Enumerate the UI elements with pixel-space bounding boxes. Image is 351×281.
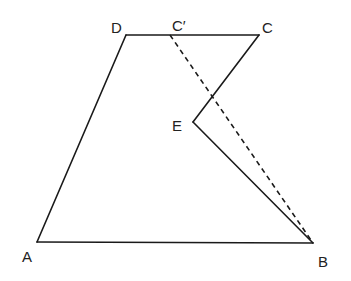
- segment-C-prime-B: [170, 35, 313, 243]
- label-E: E: [172, 117, 182, 134]
- segment-A-B: [37, 242, 313, 243]
- segment-C-E: [193, 35, 259, 122]
- label-A: A: [22, 248, 32, 265]
- label-C: C: [262, 19, 273, 36]
- solid-edges: [37, 35, 313, 243]
- label-D: D: [111, 19, 122, 36]
- label-B: B: [318, 253, 328, 270]
- segment-A-D: [37, 35, 126, 242]
- label-C-prime: C′: [172, 17, 186, 34]
- dashed-edges: [170, 35, 313, 243]
- vertex-labels: A B C D E C′: [22, 17, 328, 270]
- geometry-diagram: A B C D E C′: [0, 0, 351, 281]
- segment-E-B: [193, 122, 313, 243]
